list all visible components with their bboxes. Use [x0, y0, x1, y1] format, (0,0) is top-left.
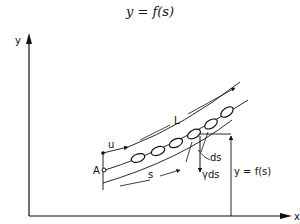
L-label: L	[174, 115, 180, 126]
x-axis-label: x	[294, 211, 300, 222]
gamma-ds-label: γds	[202, 169, 219, 180]
s-label: s	[148, 169, 153, 180]
height-label: y = f(s)	[234, 166, 271, 177]
y-axis-label: y	[15, 35, 21, 46]
x-axis	[29, 213, 292, 219]
y-axis	[26, 33, 32, 216]
ds-label: ds	[210, 152, 222, 163]
u-label: u	[108, 139, 114, 150]
chain-diagram: y x u A L s ds γds y = f(s)	[0, 0, 300, 224]
point-a-label: A	[93, 165, 100, 176]
